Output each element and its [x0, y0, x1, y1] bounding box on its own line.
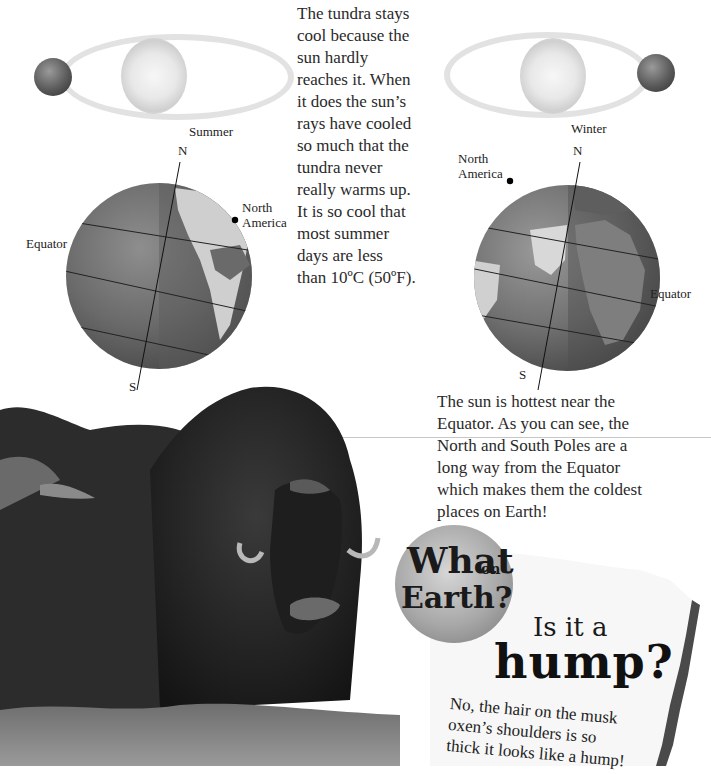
- summer-season-label: Summer: [189, 124, 233, 139]
- paragraph-line: so much that the: [297, 135, 457, 157]
- paragraph-line: long way from the Equator: [437, 457, 711, 479]
- sun-icon: [121, 38, 187, 114]
- paragraph-line: rays have cooled: [297, 113, 457, 135]
- paragraph-line: North and South Poles are a: [437, 435, 711, 457]
- summer-globe-diagram: [60, 140, 290, 400]
- tundra-paragraph: The tundra stays cool because the sun ha…: [297, 3, 457, 289]
- paragraph-line: Equator. As you can see, the: [437, 413, 711, 435]
- musk-oxen-photo: [0, 380, 400, 766]
- badge-line2: Earth?: [401, 580, 512, 615]
- paragraph-line: most summer: [297, 223, 457, 245]
- paragraph-line: really warms up.: [297, 179, 457, 201]
- paragraph-line: it does the sun’s: [297, 91, 457, 113]
- continent-label-line2: America: [242, 215, 287, 230]
- paragraph-line: places on Earth!: [437, 501, 711, 523]
- paragraph-line: It is so cool that: [297, 201, 457, 223]
- paragraph-line: days are less: [297, 245, 457, 267]
- winter-south-label: S: [519, 367, 526, 382]
- sun-icon: [520, 38, 586, 114]
- winter-equator-label: Equator: [650, 286, 691, 301]
- paragraph-line: The sun is hottest near the: [437, 391, 711, 413]
- summer-north-label: N: [178, 143, 187, 158]
- earth-icon: [34, 58, 72, 96]
- paragraph-line: reaches it. When: [297, 69, 457, 91]
- winter-continent-label: North America: [458, 151, 503, 181]
- continent-label-line1: North: [458, 151, 503, 166]
- continent-label-line2: America: [458, 166, 503, 181]
- summer-continent-label: North America: [242, 200, 287, 230]
- paragraph-line: which makes them the coldest: [437, 479, 711, 501]
- summer-globe-icon: [60, 140, 290, 400]
- paragraph-line: cool because the: [297, 25, 457, 47]
- summer-orbit-diagram: [30, 28, 270, 128]
- earth-icon: [637, 54, 675, 92]
- equator-paragraph: The sun is hottest near the Equator. As …: [437, 391, 711, 523]
- badge-small-word: on: [481, 561, 501, 577]
- continent-label-line1: North: [242, 200, 287, 215]
- summer-equator-label: Equator: [26, 236, 67, 251]
- paragraph-line: tundra never: [297, 157, 457, 179]
- winter-season-label: Winter: [571, 121, 607, 136]
- musk-oxen-image: [0, 380, 400, 766]
- paragraph-line: sun hardly: [297, 47, 457, 69]
- winter-orbit-diagram: [440, 28, 680, 128]
- winter-north-label: N: [573, 143, 582, 158]
- question-line2: hump?: [494, 635, 674, 689]
- paragraph-line: The tundra stays: [297, 3, 457, 25]
- paragraph-line: than 10ºC (50ºF).: [297, 267, 457, 289]
- what-on-earth-badge: What on Earth?: [395, 525, 513, 643]
